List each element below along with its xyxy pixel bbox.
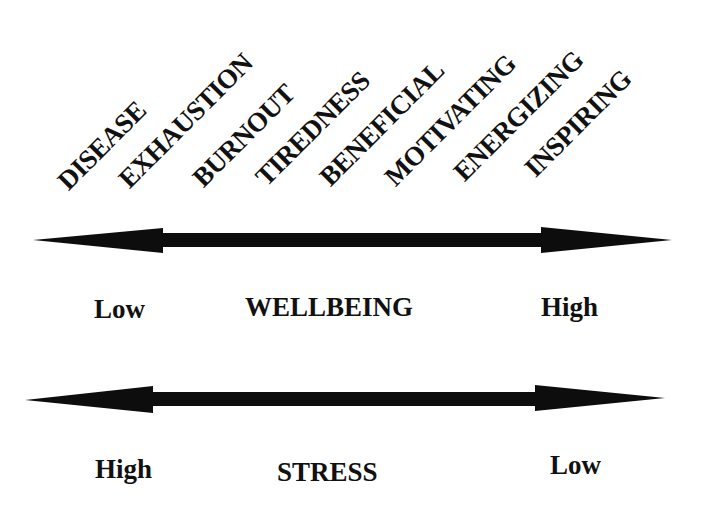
- stress-wellbeing-diagram: DISEASE EXHAUSTION BURNOUT TIREDNESS BEN…: [0, 0, 704, 521]
- stress-double-arrow: [25, 385, 665, 413]
- wellbeing-double-arrow: [33, 227, 672, 253]
- wellbeing-title: WELLBEING: [245, 294, 413, 321]
- wellbeing-high-label: High: [541, 294, 598, 321]
- stress-high-label: High: [95, 456, 152, 483]
- stress-low-label: Low: [550, 452, 601, 479]
- stress-title: STRESS: [277, 459, 378, 486]
- axis-arrows: [0, 0, 704, 521]
- wellbeing-low-label: Low: [94, 296, 145, 323]
